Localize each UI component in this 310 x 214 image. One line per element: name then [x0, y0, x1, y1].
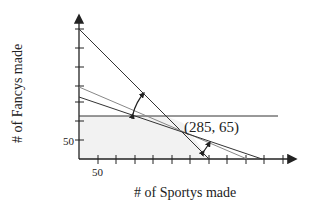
x-tick-label-50: 50: [92, 166, 104, 178]
point-label: (285, 65): [184, 119, 239, 136]
y-tick-label-50: 50: [63, 135, 75, 147]
diagram: (285, 65) 50 50 # of Sportys made # of F…: [0, 0, 310, 214]
y-axis-label: # of Fancys made: [10, 44, 25, 143]
x-axis-label: # of Sportys made: [134, 185, 236, 200]
rotation-arrow-lower: [204, 142, 210, 151]
